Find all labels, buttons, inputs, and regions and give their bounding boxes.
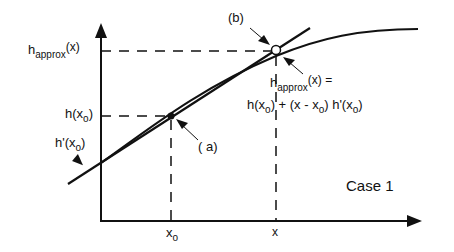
h-x0-base: h(x [65, 106, 83, 121]
x-axis-arrow-icon [407, 215, 422, 227]
equation-line-2: h(xo) + (x - xo) h'(xo) [247, 98, 363, 111]
label-h-x0: h(xo) [65, 107, 93, 120]
eq2-sub: o [319, 104, 325, 115]
function-curve [101, 29, 418, 163]
label-point-b: (b) [228, 11, 244, 24]
h-x0-close: ) [89, 106, 93, 121]
eq2-part: ) [358, 97, 362, 112]
eq2-part: ) + (x - x [271, 97, 319, 112]
label-x0: xo [166, 226, 178, 239]
eq2-part: ) h'(x [324, 97, 352, 112]
x0-sub: o [173, 232, 179, 243]
label-x: x [272, 226, 278, 238]
h-approx-sub: approx [35, 49, 66, 60]
pointer-hprime-arrow-icon [71, 153, 83, 167]
eq2-sub: o [353, 104, 359, 115]
eq2-sub: o [265, 104, 271, 115]
eq-rest: (x) = [308, 73, 332, 87]
h-x0-sub: o [83, 113, 89, 124]
equation-line-1: happrox(x) = [270, 76, 332, 89]
point-b [272, 46, 281, 55]
case-label: Case 1 [346, 178, 394, 193]
h-prime-sub: o [76, 142, 82, 153]
label-h-prime-x0: h'(xo) [55, 136, 85, 149]
pointer-eq-arrow-icon [283, 57, 295, 66]
h-prime-close: ) [81, 135, 85, 150]
h-approx-arg: (x) [66, 40, 80, 54]
diagram-canvas [0, 0, 454, 252]
x0-base: x [166, 225, 173, 240]
y-axis-arrow-icon [95, 23, 107, 38]
point-a [168, 113, 175, 120]
label-h-approx: happrox(x) [28, 43, 80, 56]
h-prime-base: h'(x [55, 135, 76, 150]
label-point-a: ( a) [198, 140, 218, 153]
eq-sub: approx [277, 82, 308, 93]
pointer-a-arrow-icon [176, 119, 188, 129]
eq2-part: h(x [247, 97, 265, 112]
